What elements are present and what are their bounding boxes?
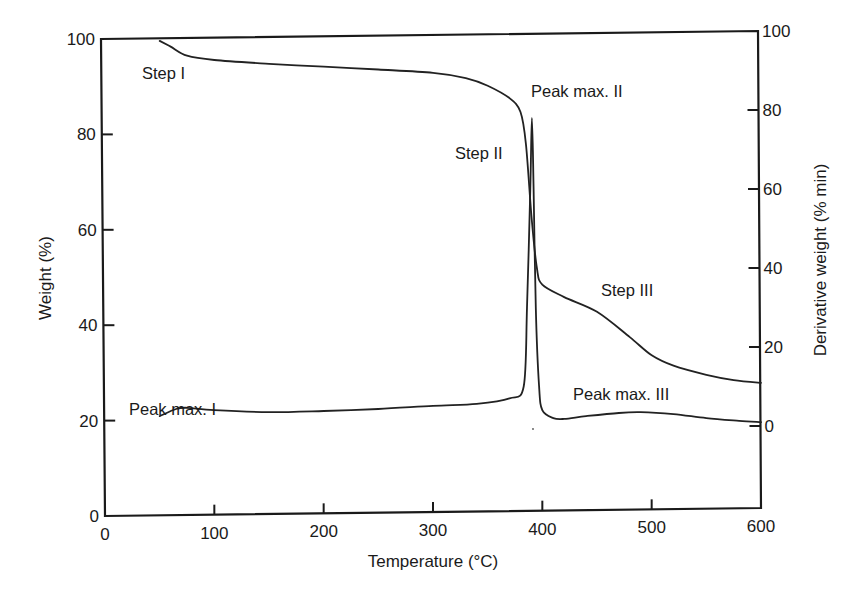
annotation-peak-max-2: Peak max. II (531, 82, 623, 100)
y-right-tick-label: 40 (763, 259, 782, 278)
y-left-tick-label: 100 (67, 30, 95, 49)
y-right-tick-label: 100 (762, 22, 790, 41)
y-left-tick-label: 20 (79, 412, 98, 431)
annotation-step-2: Step II (455, 144, 503, 162)
x-tick-label: 500 (637, 518, 665, 537)
scan-speck (532, 428, 534, 430)
weight-curve (160, 41, 761, 383)
y-left-tick-label: 0 (90, 507, 99, 526)
x-tick-label: 100 (200, 524, 228, 543)
y-right-tick-label: 80 (762, 101, 781, 120)
y-axis-right-title: Derivative weight (% min) (811, 164, 830, 357)
x-axis-tick-labels: 0100200300400500600 (100, 517, 775, 544)
y-right-tick-label: 0 (764, 417, 773, 436)
x-tick-label: 200 (309, 522, 337, 541)
y-axis-left-tick-labels: 020406080100 (67, 30, 99, 526)
y-left-tick-label: 40 (78, 316, 97, 335)
tga-dtg-chart: 0100200300400500600 020406080100 0204060… (0, 0, 862, 598)
y-right-tick-label: 60 (763, 180, 782, 199)
y-right-tick-label: 20 (764, 338, 783, 357)
x-axis-title: Temperature (°C) (368, 552, 499, 571)
x-tick-label: 300 (419, 521, 447, 540)
x-tick-label: 400 (528, 520, 556, 539)
annotation-step-1: Step I (142, 64, 185, 82)
derivative-weight-curve (160, 118, 761, 422)
y-left-tick-label: 80 (77, 125, 96, 144)
annotation-peak-max-1: Peak max. I (129, 400, 216, 418)
plot-frame (101, 31, 761, 516)
x-tick-label: 0 (100, 525, 109, 544)
annotation-step-3: Step III (601, 281, 653, 299)
y-axis-right-tick-labels: 020406080100 (762, 22, 790, 436)
y-left-tick-label: 60 (78, 221, 97, 240)
y-axis-left-title: Weight (%) (36, 236, 55, 320)
x-tick-label: 600 (747, 517, 775, 536)
annotation-peak-max-3: Peak max. III (573, 385, 669, 403)
